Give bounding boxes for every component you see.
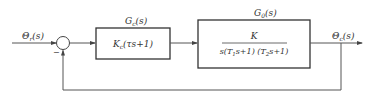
plant-numerator: K <box>250 31 259 41</box>
controller-transfer-function: Kc(τs+1) <box>112 39 153 50</box>
block-diagram: Θr(s) − Gc(s) Kc(τs+1) G0(s) K s(T1s+1) … <box>0 0 376 100</box>
plant-block <box>198 20 310 68</box>
output-label: Θc(s) <box>332 31 355 42</box>
plant-denominator: s(T1s+1) (T2s+1) <box>220 47 289 57</box>
input-label: Θr(s) <box>22 31 44 42</box>
plant-label: G0(s) <box>254 8 277 19</box>
minus-sign: − <box>53 48 60 57</box>
controller-label: Gc(s) <box>125 16 148 27</box>
